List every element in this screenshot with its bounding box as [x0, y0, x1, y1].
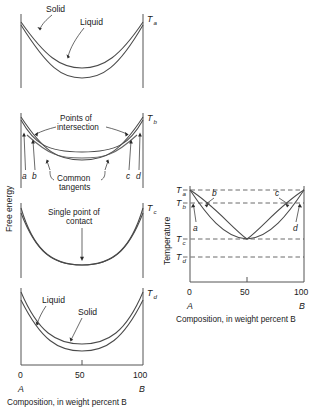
- phase-arrow-a: [191, 203, 195, 207]
- panel-ta-solid-label: Solid: [46, 4, 65, 14]
- temperature-axis-label: Temperature: [162, 217, 172, 265]
- panel-ta-liquid-label: Liquid: [80, 17, 103, 27]
- phase-arrow-c: [285, 204, 289, 208]
- panel-tb-temperature-sub: b: [154, 118, 158, 125]
- panel-tb-poi-leader-left: [36, 127, 56, 134]
- left-xtick-100: 100: [133, 370, 148, 380]
- panel-tb-temperature-label: T: [147, 113, 153, 123]
- phase-diagram: Temperature T a T b T c T d a b c: [162, 185, 309, 324]
- panel-tb-points-intersection-line2: intersection: [57, 123, 99, 132]
- panel-tb-point-a-label: a: [22, 171, 27, 181]
- phase-point-c-label: c: [275, 188, 280, 198]
- panel-td-liquid-leader: [37, 306, 46, 324]
- phase-tb-sub: b: [183, 203, 187, 210]
- panel-tb-tick-c: [129, 141, 131, 170]
- panel-tb-common-tangents-line2: tangents: [59, 183, 90, 192]
- free-energy-axis-label-text: Free energy: [4, 185, 14, 232]
- panel-ta-solid-arrowhead: [37, 27, 41, 30]
- panel-td-solid-label: Solid: [78, 307, 97, 317]
- panel-tc-single-point-line2: contact: [66, 217, 93, 226]
- panel-ta-temperature-sub: a: [154, 19, 158, 26]
- panel-td-solid-arrowhead: [70, 337, 74, 341]
- panel-tc-single-point-line1: Single point of: [48, 208, 101, 217]
- phase-tc-sub: c: [183, 239, 187, 246]
- phase-solidus-curve: [190, 190, 304, 239]
- phase-td-label: T: [176, 252, 182, 262]
- panel-tc: Single point of contact T c: [21, 203, 158, 278]
- panel-tb-point-b-label: b: [32, 171, 37, 181]
- left-endpoint-b: B: [139, 384, 145, 394]
- panel-tb-point-c-label: c: [126, 171, 131, 181]
- panel-tb-tick-b: [33, 141, 35, 170]
- left-xtick-0: 0: [18, 370, 23, 380]
- panel-td: Liquid Solid T d 0 50 100 A B Compositio…: [7, 288, 158, 407]
- panel-tb-arrow-d: [138, 133, 142, 137]
- panel-td-solid-leader: [71, 318, 82, 340]
- panel-tc-temperature-sub: c: [154, 208, 158, 215]
- panel-ta: Solid Liquid T a: [21, 4, 158, 88]
- phase-liquidus-curve: [190, 190, 304, 239]
- phase-point-b-label: b: [212, 188, 217, 198]
- panel-td-liquid-label: Liquid: [42, 295, 65, 305]
- panel-tc-temperature-label: T: [147, 203, 153, 213]
- phase-endpoint-b: B: [299, 301, 305, 311]
- phase-xtick-100: 100: [294, 287, 309, 297]
- panel-td-temperature-label: T: [147, 288, 153, 298]
- figure-root: Free energy Solid Liquid T a Points of i…: [0, 0, 329, 410]
- phase-x-axis-label: Composition, in weight percent B: [176, 315, 296, 324]
- panel-tb-points-intersection-line1: Points of: [60, 114, 93, 123]
- panel-tb-common-tangents-line1: Common: [57, 174, 91, 183]
- phase-tb-label: T: [176, 198, 182, 208]
- phase-arrow-b: [205, 204, 209, 208]
- panel-tb-poi-arrowhead-right: [125, 132, 129, 136]
- free-energy-axis-label: Free energy: [4, 185, 14, 232]
- panel-ta-liquid-leader: [68, 28, 84, 57]
- left-x-axis-label: Composition, in weight percent B: [7, 398, 127, 407]
- phase-xtick-50: 50: [240, 287, 250, 297]
- panel-tb-brace-right: [101, 171, 105, 180]
- panel-tb-tick-a: [24, 134, 26, 170]
- phase-tc-label: T: [176, 234, 182, 244]
- phase-xtick-0: 0: [187, 287, 192, 297]
- phase-endpoint-a: A: [186, 301, 193, 311]
- panel-tb-common-tangent: [27, 135, 137, 158]
- panel-tb-point-d-label: d: [136, 171, 141, 181]
- figure-svg: Free energy Solid Liquid T a Points of i…: [0, 0, 329, 410]
- phase-leader-a: [194, 205, 197, 222]
- phase-td-sub: d: [183, 257, 187, 264]
- phase-ta-label: T: [176, 185, 182, 195]
- phase-ta-sub: a: [183, 190, 187, 197]
- panel-ta-solid-leader: [40, 15, 52, 29]
- panel-ta-liquid-curve: [21, 25, 143, 78]
- phase-point-d-label: d: [293, 223, 298, 233]
- panel-td-temperature-sub: d: [154, 293, 158, 300]
- phase-arrow-d: [298, 203, 302, 207]
- panel-tc-arrowhead: [80, 257, 84, 261]
- left-xtick-50: 50: [75, 370, 85, 380]
- panel-tb-brace-left: [50, 171, 54, 180]
- panel-tb-poi-leader-right: [106, 127, 127, 134]
- phase-leader-d: [296, 205, 300, 222]
- panel-tb-arrow-a: [22, 133, 26, 137]
- left-endpoint-a: A: [17, 384, 24, 394]
- panel-tb: Points of intersection a b c d Common ta…: [21, 113, 158, 192]
- phase-point-a-label: a: [193, 223, 198, 233]
- panel-ta-temperature-label: T: [147, 14, 153, 24]
- panel-tb-tick-d: [139, 134, 140, 170]
